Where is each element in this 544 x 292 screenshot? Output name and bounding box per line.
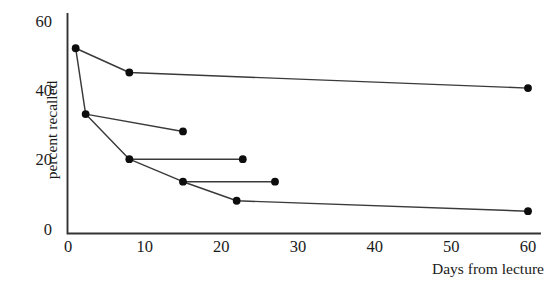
data-point xyxy=(524,207,532,215)
data-point xyxy=(72,44,80,52)
x-tick-label: 20 xyxy=(213,237,230,256)
data-point xyxy=(524,84,532,92)
x-tick-label: 60 xyxy=(520,237,537,256)
x-tick-label: 10 xyxy=(136,237,153,256)
data-point xyxy=(271,178,279,186)
y-tick-label: 0 xyxy=(44,220,52,239)
y-tick-label: 60 xyxy=(36,12,53,31)
x-axis-title: Days from lecture xyxy=(432,260,544,277)
y-axis-title: percent recalled xyxy=(43,80,60,179)
data-point xyxy=(125,155,133,163)
chart-background xyxy=(0,0,544,292)
x-tick-label: 40 xyxy=(366,237,383,256)
percent-recalled-line-chart: 0102030405060 0204060 Days from lecture … xyxy=(0,0,544,292)
data-point xyxy=(239,155,247,163)
x-tick-label: 50 xyxy=(443,237,460,256)
x-tick-label: 30 xyxy=(290,237,307,256)
data-point xyxy=(233,197,241,205)
data-point xyxy=(179,128,187,136)
data-point xyxy=(125,69,133,77)
data-point xyxy=(82,110,90,118)
chart-figure: 0102030405060 0204060 Days from lecture … xyxy=(0,0,544,292)
data-point xyxy=(179,178,187,186)
x-tick-label: 0 xyxy=(64,237,72,256)
